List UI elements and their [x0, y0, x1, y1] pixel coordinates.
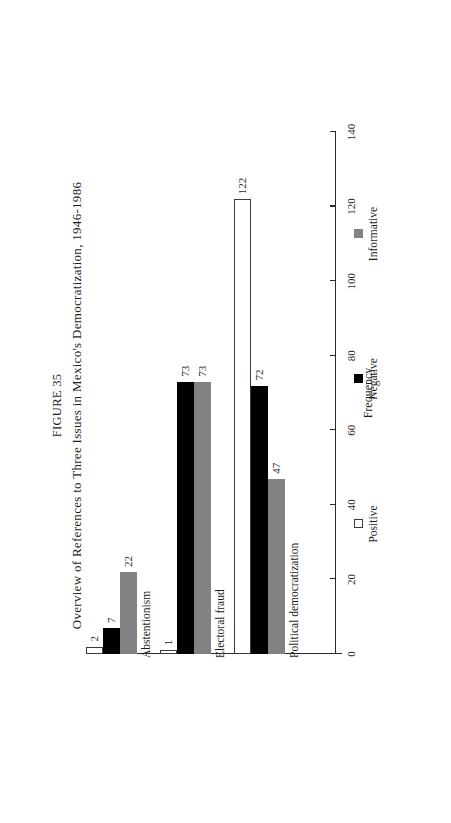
axis-tick — [330, 504, 336, 505]
bar-positive — [160, 650, 177, 654]
bar-negative — [103, 628, 120, 654]
bar-value-label: 1 — [160, 640, 177, 646]
category-label: Electoral fraud — [214, 589, 226, 658]
bar-informative — [194, 382, 211, 654]
axis-tick — [330, 355, 336, 356]
legend-label: Informative — [367, 207, 379, 261]
axis-tick — [330, 280, 336, 281]
tick-rail — [335, 132, 336, 654]
bar-value-label: 73 — [194, 366, 211, 377]
legend-item: Positive — [354, 464, 379, 584]
legend-item: Informative — [354, 174, 379, 294]
axis-tick — [330, 578, 336, 579]
figure-caption: Overview of References to Three Issues i… — [69, 65, 85, 746]
legend-item: Negative — [354, 319, 379, 439]
bar-value-label: 47 — [268, 463, 285, 474]
bar-negative — [251, 386, 268, 654]
bar-informative — [120, 572, 137, 654]
figure-number: FIGURE 35 — [50, 65, 65, 746]
category-label: Abstentionism — [140, 591, 152, 658]
axis-tick — [330, 205, 336, 206]
axis-tick — [330, 653, 336, 654]
gray-square-icon — [354, 230, 363, 239]
legend-label: Positive — [367, 505, 379, 542]
figure-rotated-container: FIGURE 35 Overview of References to Thre… — [36, 65, 423, 746]
bar-value-label: 2 — [86, 636, 103, 642]
bar-positive — [234, 199, 251, 654]
white-square-icon — [354, 520, 363, 529]
bar-negative — [177, 382, 194, 654]
bar-value-label: 122 — [234, 178, 251, 195]
bar-value-label: 22 — [120, 556, 137, 567]
bar-value-label: 7 — [103, 617, 120, 623]
black-square-icon — [354, 375, 363, 384]
axis-tick — [330, 429, 336, 430]
bar-informative — [268, 479, 285, 654]
axis-tick — [330, 131, 336, 132]
figure: FIGURE 35 Overview of References to Thre… — [36, 65, 423, 746]
bar-positive — [86, 647, 103, 654]
legend-label: Negative — [367, 358, 379, 400]
bar-value-label: 73 — [177, 366, 194, 377]
chart-legend: PositiveNegativeInformative — [354, 132, 394, 654]
bar-value-label: 72 — [251, 370, 268, 381]
plot-area: 020406080100120140 Frequency 1227247Poli… — [114, 132, 336, 654]
category-label: Political democratization — [288, 543, 300, 658]
